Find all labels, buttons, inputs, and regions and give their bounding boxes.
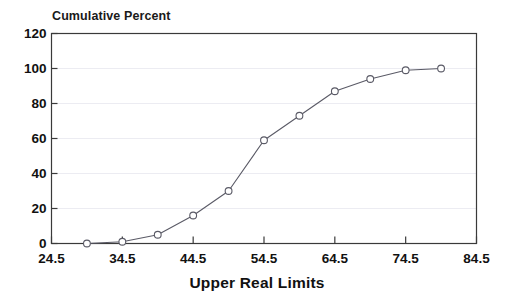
data-point-74.5: [402, 67, 409, 74]
plot-area: [0, 0, 514, 305]
data-point-64.5: [331, 88, 338, 95]
data-point-34.5: [119, 238, 126, 245]
data-point-59.5: [296, 112, 303, 119]
data-point-44.5: [190, 212, 197, 219]
cumulative-percent-chart: Cumulative Percent Upper Real Limits 020…: [0, 0, 514, 305]
data-point-69.5: [367, 76, 374, 83]
data-point-29.5: [84, 240, 91, 247]
data-point-39.5: [154, 231, 161, 238]
data-point-markers: [84, 65, 445, 247]
y-axis-ticks: [52, 34, 58, 244]
data-series-line: [87, 69, 441, 244]
data-point-54.5: [261, 137, 268, 144]
data-point-79.5: [438, 65, 445, 72]
data-point-49.5: [225, 188, 232, 195]
